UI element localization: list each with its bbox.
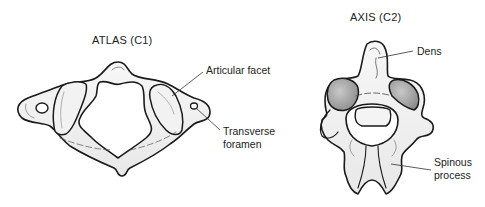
atlas-left-transverse-foramen bbox=[36, 103, 48, 113]
label-transverse-foramen-line1: Transverse bbox=[223, 125, 275, 137]
label-articular-facet: Articular facet bbox=[206, 64, 270, 76]
atlas-title: ATLAS (C1) bbox=[92, 34, 152, 46]
atlas-vertebra bbox=[18, 62, 210, 176]
label-spinous-process-line1: Spinous bbox=[434, 156, 472, 168]
vertebrae-illustration bbox=[0, 0, 485, 207]
axis-title: AXIS (C2) bbox=[350, 11, 401, 23]
axis-left-articular-facet bbox=[327, 78, 358, 110]
label-dens: Dens bbox=[417, 45, 442, 57]
articular-facet-leader bbox=[172, 72, 203, 96]
label-spinous-process-line2: process bbox=[434, 169, 471, 181]
axis-vertebra bbox=[320, 41, 433, 194]
label-transverse-foramen-line2: foramen bbox=[223, 138, 262, 150]
